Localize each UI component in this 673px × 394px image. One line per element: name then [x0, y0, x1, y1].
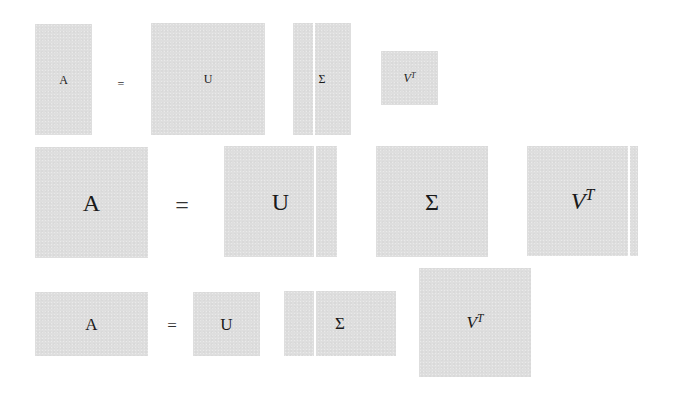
equals-sign: =: [118, 78, 125, 90]
matrix-sigma: Σ: [284, 291, 396, 356]
matrix-a: A: [35, 292, 148, 356]
matrix-a-label: A: [83, 191, 100, 215]
matrix-sigma-label: Σ: [319, 73, 326, 85]
matrix-v-transpose: VT: [527, 146, 638, 256]
partition-line: [313, 23, 315, 135]
matrix-u: U: [151, 23, 265, 135]
equals-sign: =: [167, 317, 177, 334]
matrix-u-label: U: [272, 190, 289, 214]
matrix-u: U: [224, 146, 337, 257]
matrix-v-transpose-label: VT: [467, 314, 484, 331]
matrix-v-transpose-label: VT: [571, 189, 595, 213]
matrix-sigma: Σ: [293, 23, 351, 135]
matrix-sigma-label: Σ: [425, 190, 439, 214]
matrix-a-label: A: [85, 316, 97, 333]
partition-line: [314, 291, 316, 356]
matrix-a-label: A: [59, 74, 68, 86]
matrix-sigma-label: Σ: [335, 315, 345, 332]
matrix-u: U: [193, 292, 260, 356]
partition-line: [314, 146, 316, 257]
matrix-u-label: U: [220, 316, 232, 333]
matrix-v-transpose: VT: [419, 268, 531, 377]
matrix-a: A: [35, 147, 148, 258]
matrix-a: A: [35, 24, 92, 135]
matrix-sigma: Σ: [376, 146, 488, 257]
partition-line: [628, 146, 630, 256]
matrix-v-transpose-label: VT: [404, 72, 416, 84]
matrix-v-transpose: VT: [381, 51, 438, 105]
equals-sign: =: [175, 193, 189, 217]
matrix-u-label: U: [204, 73, 213, 85]
